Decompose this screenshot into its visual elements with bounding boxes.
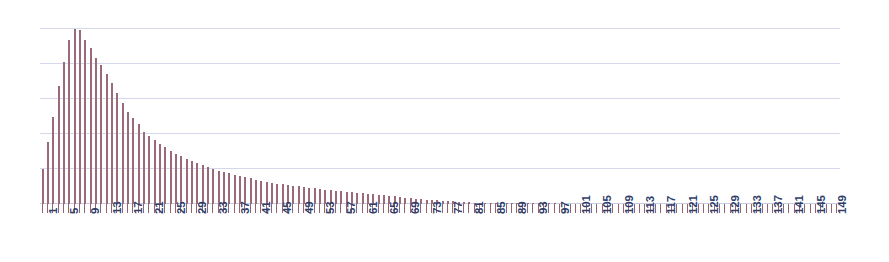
bar [47,142,49,204]
x-tick [532,204,533,213]
x-tick-label: 53 [324,200,336,214]
x-axis-labels: 1591317212529333741454953576165697377818… [40,214,840,262]
bar [63,62,65,204]
bar [212,169,214,204]
bar [74,29,76,204]
bar [111,83,113,204]
x-tick-label: 89 [516,200,528,214]
x-tick-label: 145 [815,200,827,214]
x-tick-label: 45 [281,200,293,214]
x-tick-label: 17 [132,200,144,214]
bar [196,163,198,204]
x-tick [788,204,789,213]
x-tick [84,204,85,213]
x-tick-label: 37 [239,200,251,214]
bar [319,189,321,204]
x-tick [618,204,619,213]
x-tick [490,204,491,213]
x-tick-label: 21 [153,200,165,214]
x-tick [554,204,555,213]
bar [186,159,188,204]
x-tick [575,204,576,213]
bar [79,30,81,204]
x-tick [212,204,213,213]
x-tick [468,204,469,213]
x-tick [404,204,405,213]
x-tick-label: 93 [537,200,549,214]
x-tick [191,204,192,213]
bar [138,124,140,204]
bar [58,86,60,204]
bar [207,167,209,204]
x-tick [42,204,43,213]
plot-area [40,20,840,204]
x-tick-label: 141 [793,200,805,214]
x-tick [234,204,235,213]
x-tick-label: 113 [644,200,656,214]
x-tick-label: 77 [452,200,464,214]
x-tick [596,204,597,213]
x-tick-label: 137 [772,200,784,214]
x-tick [511,204,512,213]
bar [148,136,150,204]
x-tick-label: 33 [217,200,229,214]
bar [122,103,124,204]
x-tick [810,204,811,213]
bar [276,184,278,204]
bar [164,147,166,204]
x-tick [447,204,448,213]
bar [106,74,108,204]
x-tick-label: 129 [729,200,741,214]
x-tick-label: 25 [175,200,187,214]
bar [159,144,161,204]
bar [154,140,156,204]
bar [175,154,177,204]
x-tick-label: 125 [708,200,720,214]
chart-page: 1591317212529333741454953576165697377818… [0,0,889,262]
x-tick-label: 65 [388,200,400,214]
x-tick [426,204,427,213]
x-tick-label: 41 [260,200,272,214]
x-tick-label: 109 [623,200,635,214]
x-tick [298,204,299,213]
x-tick [148,204,149,213]
bar [127,112,129,204]
x-tick [767,204,768,213]
x-tick-label: 133 [751,200,763,214]
x-tick-label: 73 [431,200,443,214]
bar [100,65,102,204]
x-tick-label: 57 [345,200,357,214]
x-tick [340,204,341,213]
bar [191,161,193,204]
bar [143,132,145,204]
x-tick-label: 149 [836,200,848,214]
bar [95,58,97,204]
bar-series [40,21,840,204]
bar [170,151,172,204]
x-tick [170,204,171,213]
bar [218,171,220,204]
x-tick-label: 49 [303,200,315,214]
x-tick-label: 29 [196,200,208,214]
bar [84,40,86,204]
x-tick [127,204,128,213]
x-tick-label: 121 [687,200,699,214]
x-tick [276,204,277,213]
bar [298,186,300,204]
x-tick-label: 69 [409,200,421,214]
x-tick [746,204,747,213]
x-tick-label: 101 [580,200,592,214]
x-tick [703,204,704,213]
x-tick-label: 9 [89,200,101,214]
x-tick [319,204,320,213]
x-tick [660,204,661,213]
x-tick-label: 97 [559,200,571,214]
x-tick [362,204,363,213]
x-tick [383,204,384,213]
x-tick-label: 85 [495,200,507,214]
x-tick [255,204,256,213]
bar [42,169,44,204]
bar [68,40,70,204]
bar [234,175,236,204]
x-tick-label: 61 [367,200,379,214]
